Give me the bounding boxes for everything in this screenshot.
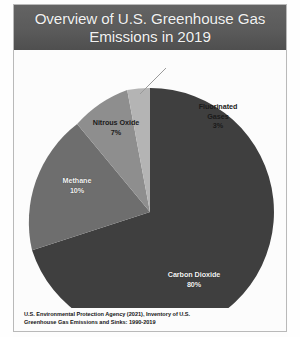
label-nitrous-oxide: Nitrous Oxide 7% — [73, 118, 159, 137]
page-margin-right — [288, 0, 300, 337]
label-carbon-dioxide: Carbon Dioxide 80% — [148, 270, 240, 289]
label-nitrous-oxide-name: Nitrous Oxide — [73, 118, 159, 128]
title-line-1: Overview of U.S. Greenhouse Gas — [35, 10, 266, 27]
citation-line-1: U.S. Environmental Protection Agency (20… — [24, 311, 254, 319]
label-methane-pct: 10% — [47, 186, 107, 196]
label-methane-name: Methane — [47, 176, 107, 186]
label-carbon-dioxide-name: Carbon Dioxide — [148, 270, 240, 280]
label-fluorinated-gases: Fluorinated Gases 3% — [182, 102, 254, 131]
pie-chart: Fluorinated Gases 3% Nitrous Oxide 7% Me… — [14, 50, 286, 308]
label-carbon-dioxide-pct: 80% — [148, 280, 240, 290]
slide-canvas: Overview of U.S. Greenhouse Gas Emission… — [0, 0, 300, 337]
citation-line-2: Greenhouse Gas Emissions and Sinks: 1990… — [24, 319, 254, 327]
title-line-2: Emissions in 2019 — [89, 28, 211, 45]
label-fluorinated-gases-name-2: Gases — [182, 112, 254, 122]
page-title: Overview of U.S. Greenhouse Gas Emission… — [27, 10, 274, 46]
page-margin-left — [0, 0, 13, 337]
label-nitrous-oxide-pct: 7% — [73, 128, 159, 138]
label-fluorinated-gases-pct: 3% — [182, 121, 254, 131]
title-banner: Overview of U.S. Greenhouse Gas Emission… — [14, 5, 286, 50]
label-methane: Methane 10% — [47, 176, 107, 195]
label-fluorinated-gases-name-1: Fluorinated — [182, 102, 254, 112]
source-citation: U.S. Environmental Protection Agency (20… — [24, 311, 254, 326]
